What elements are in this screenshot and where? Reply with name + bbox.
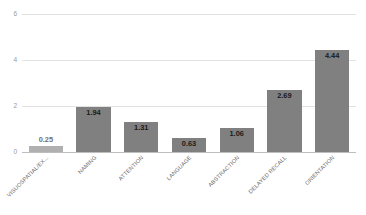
ytick-label-4: 4 [13, 57, 17, 64]
bar-naming[interactable]: 1.94 [76, 107, 110, 152]
bar-visuospatial[interactable]: 0.25 [29, 146, 63, 152]
bar-value-naming: 1.94 [76, 109, 110, 116]
xlabel-slot-orientation: ORIENTATION [308, 153, 356, 215]
xlabel-slot-language: LANGUAGE [165, 153, 213, 215]
xlabel-orientation: ORIENTATION [305, 155, 337, 187]
bar-attention[interactable]: 1.31 [124, 122, 158, 152]
bar-chart: 6 4 2 0 0.25 1.94 1.31 [0, 0, 366, 215]
bar-slot-naming: 1.94 [70, 14, 118, 152]
ytick-label-2: 2 [13, 103, 17, 110]
x-axis-labels: VISUOSPATIAL/EX... NAMING ATTENTION LANG… [22, 153, 356, 215]
xlabel-naming: NAMING [77, 155, 97, 175]
xlabel-slot-visuospatial: VISUOSPATIAL/EX... [22, 153, 70, 215]
bar-slot-visuospatial: 0.25 [22, 14, 70, 152]
ytick-label-0: 0 [13, 149, 17, 156]
bar-value-visuospatial: 0.25 [29, 136, 63, 143]
xlabel-slot-attention: ATTENTION [117, 153, 165, 215]
xlabel-language: LANGUAGE [166, 155, 193, 182]
bar-slot-abstraction: 1.06 [213, 14, 261, 152]
ytick-label-6: 6 [13, 11, 17, 18]
xlabel-abstraction: ABSTRACTION [207, 155, 240, 188]
bar-delayed-recall[interactable]: 2.69 [267, 90, 301, 152]
bar-value-delayed-recall: 2.69 [267, 92, 301, 99]
bar-slot-language: 0.63 [165, 14, 213, 152]
plot-area: 6 4 2 0 0.25 1.94 1.31 [22, 14, 356, 152]
xlabel-slot-delayed-recall: DELAYED RECALL [261, 153, 309, 215]
bar-series: 0.25 1.94 1.31 0.63 1.06 [22, 14, 356, 152]
bar-slot-delayed-recall: 2.69 [261, 14, 309, 152]
bar-value-language: 0.63 [172, 140, 206, 147]
bar-value-orientation: 4.44 [315, 52, 349, 59]
xlabel-slot-naming: NAMING [70, 153, 118, 215]
bar-value-abstraction: 1.06 [220, 130, 254, 137]
bar-slot-attention: 1.31 [117, 14, 165, 152]
bar-orientation[interactable]: 4.44 [315, 50, 349, 152]
bar-slot-orientation: 4.44 [308, 14, 356, 152]
bar-value-attention: 1.31 [124, 124, 158, 131]
bar-language[interactable]: 0.63 [172, 138, 206, 152]
xlabel-visuospatial: VISUOSPATIAL/EX... [6, 155, 50, 199]
xlabel-attention: ATTENTION [118, 155, 145, 182]
bar-abstraction[interactable]: 1.06 [220, 128, 254, 152]
